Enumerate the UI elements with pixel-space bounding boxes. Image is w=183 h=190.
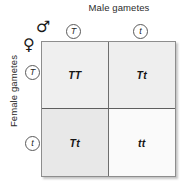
punnett-grid: TT Tt Tt tt xyxy=(41,41,176,177)
female-gamete-badge-0: T xyxy=(25,65,40,80)
punnett-cell: Tt xyxy=(42,109,109,176)
punnett-cell: tt xyxy=(109,109,176,176)
female-gametes-label: Female gametes xyxy=(8,43,19,139)
female-symbol-icon: ♀ xyxy=(23,37,35,53)
male-gamete-badge-0: T xyxy=(66,24,81,39)
male-gamete-badge-1: t xyxy=(133,24,148,39)
female-gametes-label-wrapper: Female gametes xyxy=(8,43,22,139)
punnett-cell: Tt xyxy=(109,42,176,109)
male-gametes-label: Male gametes xyxy=(56,2,182,13)
punnett-square-figure: Male gametes Female gametes ♂ ♀ T t T t … xyxy=(0,0,183,190)
punnett-cell: TT xyxy=(42,42,109,109)
male-symbol-icon: ♂ xyxy=(36,19,50,35)
female-gamete-badge-1: t xyxy=(25,136,40,151)
